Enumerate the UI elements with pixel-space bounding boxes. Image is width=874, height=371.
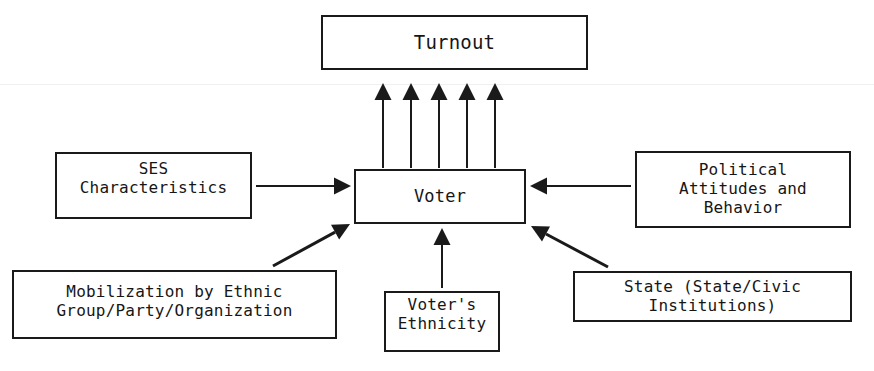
node-political: Political Attitudes and Behavior [635,151,851,228]
arrow-voter-to-turnout-1 [375,83,392,168]
arrow-ses-to-voter [256,178,351,195]
node-label-turnout: Turnout [414,31,495,53]
arrow-political-to-voter [530,178,631,195]
arrow-mobilization-to-voter [273,224,350,266]
arrow-voter-to-turnout-5 [487,83,504,168]
arrow-state-to-voter [531,226,608,267]
node-mobilization: Mobilization by Ethnic Group/Party/Organ… [12,270,337,339]
node-turnout: Turnout [321,15,588,70]
node-label-mobilization: Mobilization by Ethnic Group/Party/Organ… [57,283,293,327]
arrow-ethnicity-to-voter [434,228,451,288]
node-ethnicity: Voter's Ethnicity [384,291,500,352]
arrow-voter-to-turnout-4 [459,83,476,168]
arrow-voter-to-turnout-3 [431,83,448,168]
node-state: State (State/Civic Institutions) [573,271,852,322]
node-label-state: State (State/Civic Institutions) [624,278,801,316]
node-label-ses: SES Characteristics [80,160,228,212]
diagram-canvas: TurnoutSES CharacteristicsVoterPolitical… [0,0,874,371]
node-ses: SES Characteristics [55,152,252,219]
node-voter: Voter [354,169,526,224]
node-label-voter: Voter [414,186,466,206]
node-label-ethnicity: Voter's Ethnicity [398,296,487,348]
node-label-political: Political Attitudes and Behavior [679,161,807,218]
arrow-voter-to-turnout-2 [403,83,420,168]
